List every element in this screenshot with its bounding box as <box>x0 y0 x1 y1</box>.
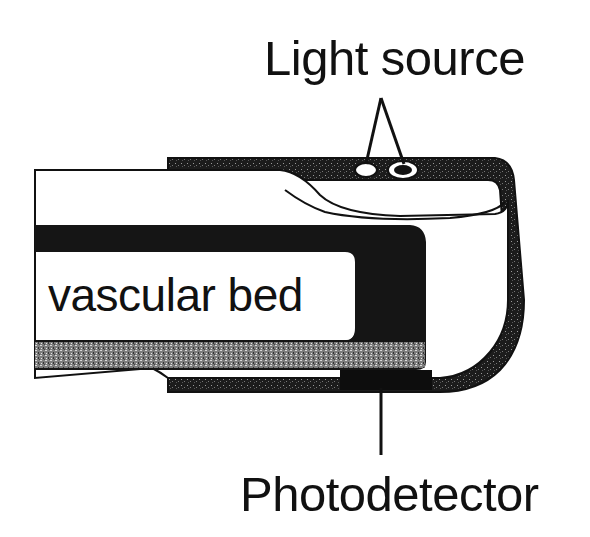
photodetector-label: Photodetector <box>240 470 539 519</box>
light-source-label: Light source <box>264 34 525 83</box>
lower-tissue-band <box>35 342 425 368</box>
led-1-icon <box>355 163 377 177</box>
photodetector-sensor <box>340 370 432 390</box>
light-source-leader <box>366 98 404 164</box>
vascular-bed-label: vascular bed <box>48 272 303 318</box>
